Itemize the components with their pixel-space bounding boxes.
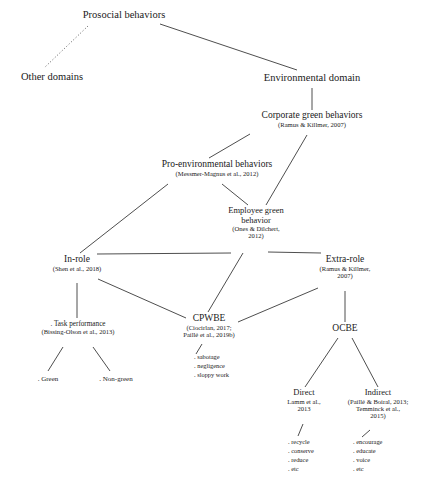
leaf-group-direct-examples: . recycle . conserve . reduce . etc: [288, 437, 314, 473]
edge-task-nongreen: [93, 347, 110, 371]
node-label: . Task performance: [41, 320, 114, 328]
edge-employee-green-inrole: [97, 253, 231, 254]
node-citation-line-2: Paillé et al., 2019b): [183, 331, 234, 338]
node-citation-line-2: Temminck et al.,: [348, 405, 408, 412]
node-indirect: Indirect (Paillé & Boiral, 2013; Temminc…: [348, 388, 408, 420]
node-employee-green-behavior: Employee green behavior (Ones & Dilchert…: [228, 206, 283, 240]
edge-inrole-cpwbe: [98, 279, 186, 318]
node-label: CPWBE: [183, 313, 234, 324]
node-label: Other domains: [21, 71, 83, 83]
node-citation-line-2: 2012): [228, 232, 283, 239]
node-citation-line-3: 2015): [348, 412, 408, 419]
node-other-domains: Other domains: [21, 71, 83, 83]
node-citation: (Ramus & Killmer, 2007): [262, 121, 363, 128]
leaf-item: . recycle: [288, 437, 314, 446]
edge-prosocial-other-domains: [44, 26, 88, 68]
node-citation-line-2: 2007): [320, 272, 371, 279]
node-ocbe: OCBE: [332, 323, 357, 334]
edge-ocbe-indirect: [352, 338, 378, 387]
node-label: In-role: [53, 254, 102, 265]
node-label: Prosocial behaviors: [83, 9, 166, 21]
leaf-item: . sloppy work: [194, 370, 229, 379]
leaf-item: . etc: [288, 464, 314, 473]
node-citation: (Shen et al., 2018): [53, 265, 102, 272]
node-citation-line-1: (Ones & Dilchert,: [228, 225, 283, 232]
edge-employee-green-extrarole: [268, 252, 321, 253]
edge-corporate-proenvironmental: [209, 134, 250, 158]
edge-employee-green-cpwbe: [208, 253, 243, 312]
leaf-item: . conserve: [288, 446, 314, 455]
node-pro-environmental-behaviors: Pro-environmental behaviors (Messmer-Mag…: [162, 159, 273, 177]
edge-task-green: [48, 347, 63, 371]
edge-prosocial-environmental: [160, 24, 297, 70]
node-citation: (Bissing-Olson et al., 2013): [41, 328, 114, 335]
node-label-line-2: behavior: [228, 216, 283, 226]
leaf-item: . negligence: [194, 361, 229, 370]
leaf-item: . sabotage: [194, 352, 229, 361]
node-citation-line-1: (Ciocirlan, 2017;: [183, 324, 234, 331]
node-citation: (Messmer-Magnus et al., 2012): [162, 170, 273, 177]
edge-extrarole-cpwbe: [238, 288, 318, 322]
leaf-item: . reduce: [288, 455, 314, 464]
edge-proenvironmental-inrole: [80, 184, 168, 253]
leaf-group-indirect-examples: . encourage . educate . voice . etc: [353, 437, 382, 473]
node-citation-line-1: Lamm et al.,: [287, 398, 320, 405]
node-label: Environmental domain: [264, 72, 361, 84]
edge-ocbe-direct: [305, 338, 338, 387]
node-in-role: In-role (Shen et al., 2018): [53, 254, 102, 272]
node-label: Direct: [287, 388, 320, 398]
leaf-item: . etc: [353, 464, 382, 473]
leaf-non-green: . Non-green: [99, 375, 132, 383]
edge-direct-examples: [298, 424, 303, 436]
concept-hierarchy-diagram: Prosocial behaviors Other domains Enviro…: [0, 0, 427, 488]
node-cpwbe: CPWBE (Ciocirlan, 2017; Paillé et al., 2…: [183, 313, 234, 338]
leaf-green: . Green: [38, 375, 59, 383]
node-label: Indirect: [348, 388, 408, 398]
node-label: OCBE: [332, 323, 357, 334]
node-task-performance: . Task performance (Bissing-Olson et al.…: [41, 320, 114, 335]
edge-proenvironmental-employee-green: [222, 184, 248, 205]
node-extra-role: Extra-role (Ramus & Killmer, 2007): [320, 254, 371, 279]
node-environmental-domain: Environmental domain: [264, 72, 361, 84]
node-citation-line-2: 2013: [287, 405, 320, 412]
leaf-item: . encourage: [353, 437, 382, 446]
leaf-item: . voice: [353, 455, 382, 464]
node-citation-line-1: (Ramus & Killmer,: [320, 265, 371, 272]
node-label: Extra-role: [320, 254, 371, 265]
node-label: Corporate green behaviors: [262, 110, 363, 121]
leaf-item: . educate: [353, 446, 382, 455]
node-prosocial-behaviors: Prosocial behaviors: [83, 9, 166, 21]
node-corporate-green-behaviors: Corporate green behaviors (Ramus & Killm…: [262, 110, 363, 128]
edge-indirect-examples: [362, 430, 370, 437]
leaf-group-cpwbe-examples: . sabotage . negligence . sloppy work: [194, 352, 229, 379]
node-citation-line-1: (Paillé & Boiral, 2013;: [348, 398, 408, 405]
node-label: Pro-environmental behaviors: [162, 159, 273, 170]
node-direct: Direct Lamm et al., 2013: [287, 388, 320, 412]
